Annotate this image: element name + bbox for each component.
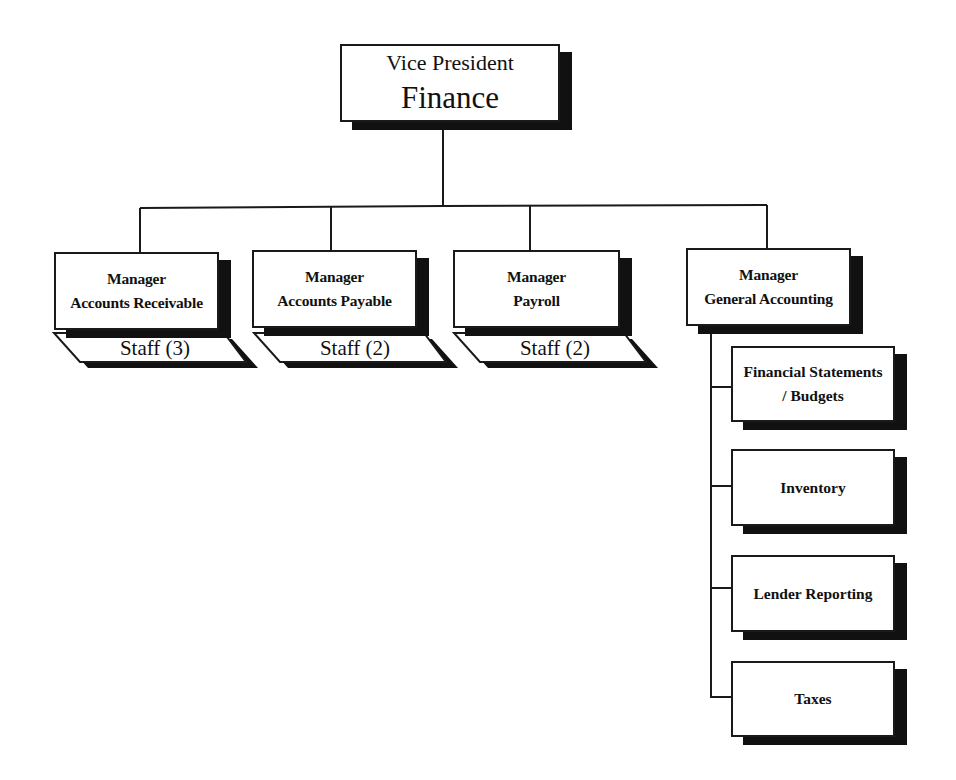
staff-payroll-label: Staff (2): [490, 336, 620, 360]
ga-taxes-box: Taxes: [731, 661, 895, 737]
vp-title: Vice President: [386, 48, 514, 78]
financial-statements-line2: / Budgets: [782, 384, 844, 408]
staff-ap-label: Staff (2): [290, 336, 420, 360]
inventory-label: Inventory: [780, 476, 845, 500]
manager-ap-box: Manager Accounts Payable: [252, 250, 417, 328]
manager-bus-line: [140, 205, 767, 208]
ga-financial-statements-box: Financial Statements / Budgets: [731, 346, 895, 422]
manager-ga-box: Manager General Accounting: [686, 248, 851, 326]
manager-payroll-box: Manager Payroll: [453, 250, 620, 328]
ga-spine-line: [711, 325, 731, 697]
vp-department: Finance: [401, 78, 499, 118]
manager-ap-title: Manager: [305, 265, 364, 289]
manager-payroll-dept: Payroll: [513, 289, 560, 313]
financial-statements-line1: Financial Statements: [743, 360, 882, 384]
manager-ap-dept: Accounts Payable: [277, 289, 391, 313]
lender-reporting-label: Lender Reporting: [754, 582, 873, 606]
manager-ar-box: Manager Accounts Receivable: [54, 252, 219, 330]
staff-ar-label: Staff (3): [90, 336, 220, 360]
ga-inventory-box: Inventory: [731, 449, 895, 526]
ga-lender-reporting-box: Lender Reporting: [731, 555, 895, 632]
manager-ga-title: Manager: [739, 263, 798, 287]
vp-finance-box: Vice President Finance: [340, 44, 560, 122]
manager-ar-title: Manager: [107, 267, 166, 291]
manager-ar-dept: Accounts Receivable: [70, 291, 203, 315]
manager-ga-dept: General Accounting: [704, 287, 833, 311]
taxes-label: Taxes: [794, 687, 831, 711]
manager-payroll-title: Manager: [507, 265, 566, 289]
